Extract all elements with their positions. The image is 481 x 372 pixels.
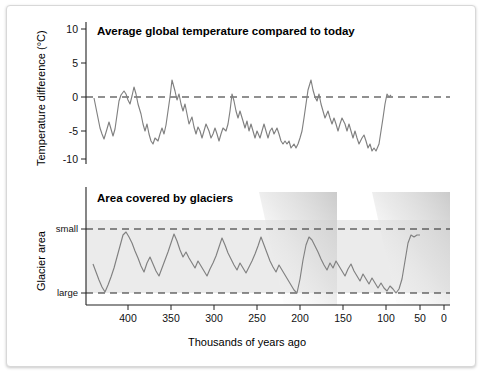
glacier-y-axis-label: Glacier area [35, 231, 47, 291]
glacier-ytick-large: large [47, 287, 78, 298]
temperature-y-axis-label: Temperature difference (°C) [35, 30, 47, 166]
x-axis [86, 305, 450, 310]
x-axis-label: Thousands of years ago [188, 336, 306, 348]
xtick-250: 250 [245, 312, 269, 324]
xtick-350: 350 [159, 312, 183, 324]
xtick-0: 0 [436, 312, 452, 324]
temperature-panel [81, 22, 450, 164]
xtick-50: 50 [410, 312, 430, 324]
temperature-series-line [94, 80, 391, 151]
glacier-panel-title: Area covered by glaciers [97, 192, 233, 204]
xtick-300: 300 [202, 312, 226, 324]
temp-ytick-neg5: -5 [55, 125, 78, 137]
temperature-panel-title: Average global temperature compared to t… [97, 25, 355, 37]
xtick-150: 150 [331, 312, 355, 324]
xtick-400: 400 [116, 312, 140, 324]
temp-ytick-5: 5 [60, 57, 78, 69]
glacier-panel [81, 187, 450, 305]
temp-ytick-10: 10 [60, 23, 78, 35]
glacier-ytick-small: small [47, 223, 78, 234]
figure-card: Average global temperature compared to t… [6, 5, 476, 367]
xtick-200: 200 [288, 312, 312, 324]
xtick-100: 100 [374, 312, 398, 324]
temp-ytick-0: 0 [60, 91, 78, 103]
temp-ytick-neg10: -10 [52, 153, 78, 165]
